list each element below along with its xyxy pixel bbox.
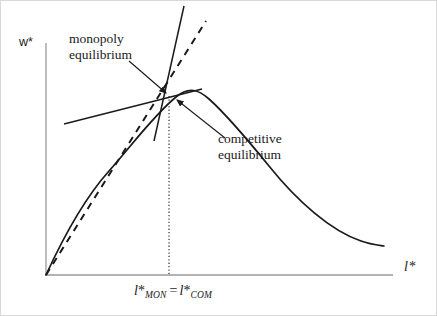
monopoly-label-line1: monopoly (69, 31, 132, 47)
x-axis-label-star: * (408, 259, 416, 274)
monopoly-arrow (129, 61, 166, 93)
competitive-equilibrium-label: competitive equilibrium (218, 131, 282, 163)
tick-subscript-mon: MON (145, 290, 167, 300)
tick-equals-sign: = (167, 283, 180, 298)
monopoly-equilibrium-label: monopoly equilibrium (69, 31, 132, 63)
tick-subscript-com: COM (190, 290, 212, 300)
shallow-solid-line (64, 89, 202, 124)
x-axis-label: l* (404, 259, 416, 276)
welfare-curve (46, 90, 384, 275)
competitive-label-line1: competitive (218, 131, 282, 147)
economics-diagram-figure: w* l* monopoly equilibrium competitive e… (0, 0, 437, 316)
competitive-label-line2: equilibrium (218, 147, 282, 163)
y-axis-label: w* (19, 35, 33, 50)
tick-star-first: * (138, 283, 145, 298)
equilibrium-tick-label: l*MON=l*COM (134, 283, 212, 301)
monopoly-label-line2: equilibrium (69, 47, 132, 63)
